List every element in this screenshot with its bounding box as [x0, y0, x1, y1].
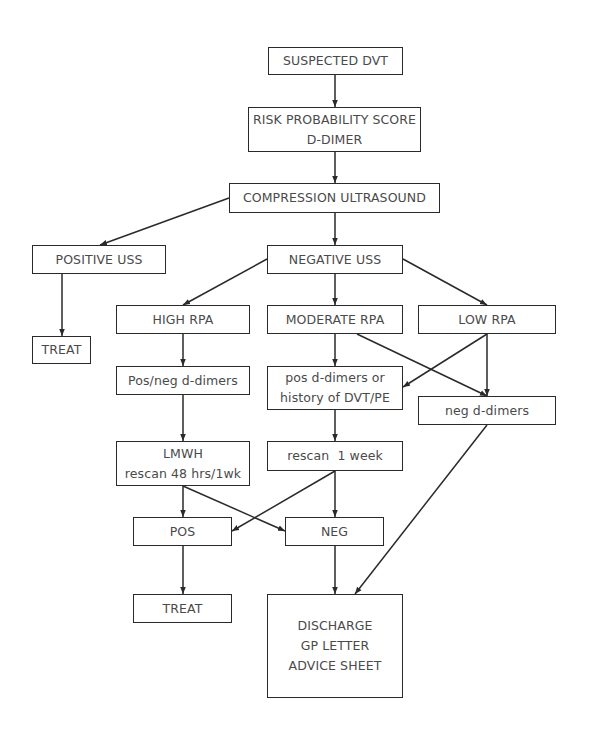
node-compression-ultrasound: COMPRESSION ULTRASOUND: [229, 183, 440, 213]
edge-low-to-posddimers: [403, 334, 487, 387]
node-pos: POS: [133, 517, 232, 546]
node-label: MODERATE RPA: [286, 310, 385, 330]
node-high-rpa: HIGH RPA: [116, 305, 250, 334]
node-label: Pos/neg d-dimers: [128, 371, 238, 391]
node-label: LMWH: [163, 444, 203, 464]
edge-compression-to-positive: [100, 198, 229, 245]
node-neg-ddimers: neg d-dimers: [418, 396, 556, 425]
node-label: RISK PROBABILITY SCORE: [253, 110, 416, 130]
node-treat-1: TREAT: [32, 336, 91, 364]
node-label: GP LETTER: [301, 636, 370, 656]
node-label: COMPRESSION ULTRASOUND: [243, 188, 426, 208]
node-label: rescan 1 week: [287, 446, 383, 466]
node-label: D-DIMER: [307, 130, 363, 150]
node-low-rpa: LOW RPA: [418, 305, 556, 334]
node-label: LOW RPA: [458, 310, 515, 330]
node-label: pos d-dimers or: [285, 368, 385, 388]
node-label: neg d-dimers: [445, 401, 529, 421]
node-label: POSITIVE USS: [56, 250, 143, 270]
node-label: TREAT: [42, 340, 82, 360]
node-suspected-dvt: SUSPECTED DVT: [268, 47, 403, 75]
edge-negative-to-high: [183, 259, 267, 305]
node-pos-neg-ddimers: Pos/neg d-dimers: [116, 366, 250, 395]
node-neg: NEG: [285, 517, 384, 546]
node-label: TREAT: [163, 599, 203, 619]
node-treat-2: TREAT: [133, 594, 232, 623]
node-rescan-1-week: rescan 1 week: [267, 441, 403, 471]
node-risk-score: RISK PROBABILITY SCORE D-DIMER: [248, 107, 421, 152]
node-label: ADVICE SHEET: [289, 656, 382, 676]
node-label: NEG: [321, 522, 348, 542]
dvt-flowchart: SUSPECTED DVT RISK PROBABILITY SCORE D-D…: [0, 0, 590, 741]
node-label: HIGH RPA: [153, 310, 214, 330]
node-negative-uss: NEGATIVE USS: [267, 245, 403, 274]
node-pos-ddimers-history: pos d-dimers or history of DVT/PE: [267, 366, 403, 410]
node-lmwh: LMWH rescan 48 hrs/1wk: [116, 441, 250, 486]
node-label: rescan 48 hrs/1wk: [125, 464, 241, 484]
node-label: SUSPECTED DVT: [283, 51, 388, 71]
node-label: NEGATIVE USS: [289, 250, 381, 270]
node-positive-uss: POSITIVE USS: [32, 245, 166, 274]
node-label: history of DVT/PE: [280, 388, 390, 408]
node-label: POS: [170, 522, 196, 542]
node-moderate-rpa: MODERATE RPA: [267, 305, 403, 334]
node-label: DISCHARGE: [297, 616, 372, 636]
node-discharge: DISCHARGE GP LETTER ADVICE SHEET: [267, 594, 403, 698]
edge-negative-to-low: [403, 259, 487, 305]
